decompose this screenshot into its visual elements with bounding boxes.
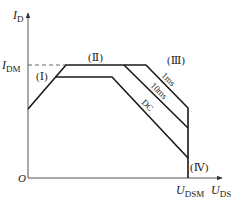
region-4-label: (Ⅳ): [190, 161, 209, 174]
y-axis-label: ID: [12, 8, 24, 24]
curve-1ms: [28, 65, 188, 178]
region-3-label: (Ⅲ): [167, 54, 185, 67]
curve-dc: [55, 77, 188, 158]
soa-diagram: ID IDM O UDSM UDS (Ⅰ) (Ⅱ) (Ⅲ) (Ⅳ) 1ms 10…: [0, 0, 238, 200]
origin-label: O: [18, 172, 26, 184]
region-1-label: (Ⅰ): [36, 70, 48, 83]
udsm-label: UDSM: [176, 183, 204, 199]
idm-label: IDM: [1, 58, 21, 74]
curve-dc-label: DC: [140, 97, 156, 113]
region-2-label: (Ⅱ): [88, 51, 103, 64]
x-axis-label: UDS: [211, 183, 231, 199]
